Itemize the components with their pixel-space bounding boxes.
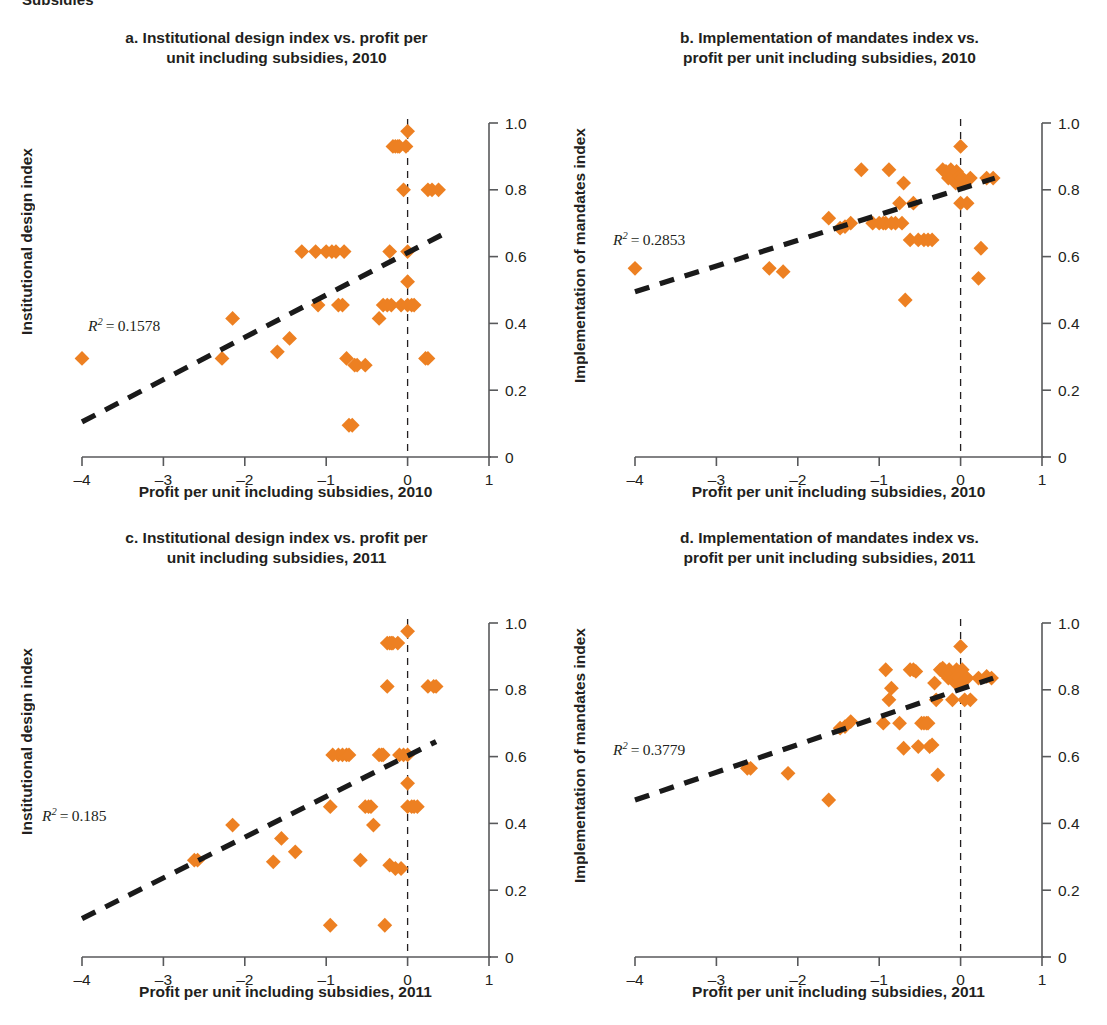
data-point: [400, 124, 415, 139]
y-tick-label-2: 0.4: [1058, 315, 1080, 332]
data-point: [377, 918, 392, 933]
data-point: [776, 264, 791, 279]
x-tick-label-3: –1: [318, 971, 335, 988]
data-point: [762, 261, 777, 276]
data-point: [821, 793, 836, 808]
data-point: [396, 182, 411, 197]
x-tick-label-2: –2: [236, 971, 253, 988]
y-tick-label-4: 0.8: [505, 681, 527, 698]
y-tick-label-0: 0: [1058, 949, 1067, 966]
data-point: [930, 768, 945, 783]
data-point: [400, 274, 415, 289]
data-point: [337, 244, 352, 259]
data-point: [882, 162, 897, 177]
y-tick-label-5: 1.0: [1058, 615, 1080, 632]
panel-b: b. Implementation of mandates index vs.p…: [553, 28, 1106, 518]
data-point: [854, 162, 869, 177]
data-point: [274, 831, 289, 846]
y-tick-label-3: 0.6: [1058, 748, 1080, 765]
x-tick-label-4: 0: [956, 971, 965, 988]
x-tick-label-5: 1: [1038, 971, 1047, 988]
y-tick-label-3: 0.6: [505, 248, 527, 265]
data-point: [971, 271, 986, 286]
data-point: [225, 311, 240, 326]
data-point: [353, 853, 368, 868]
x-tick-label-1: –3: [708, 971, 725, 988]
y-tick-label-5: 1.0: [505, 615, 527, 632]
x-tick-label-1: –3: [155, 471, 172, 488]
data-point: [429, 679, 444, 694]
x-tick-label-1: –3: [708, 471, 725, 488]
data-point: [898, 293, 913, 308]
panel-a: a. Institutional design index vs. profit…: [0, 28, 553, 518]
panel-c: c. Institutional design index vs. profit…: [0, 528, 553, 1018]
data-point: [380, 679, 395, 694]
x-tick-label-3: –1: [871, 971, 888, 988]
scatter-plot-b: –4–3–2–10100.20.40.60.81.0: [553, 28, 1106, 498]
trendline: [635, 678, 993, 800]
x-tick-label-0: –4: [626, 471, 644, 488]
x-tick-label-3: –1: [871, 471, 888, 488]
data-point: [892, 716, 907, 731]
trendline: [82, 742, 436, 919]
y-tick-label-2: 0.4: [505, 815, 527, 832]
data-point: [896, 176, 911, 191]
y-tick-label-3: 0.6: [505, 748, 527, 765]
data-point: [400, 776, 415, 791]
x-tick-label-5: 1: [1038, 471, 1047, 488]
data-point: [266, 854, 281, 869]
data-point: [884, 681, 899, 696]
x-tick-label-4: 0: [956, 471, 965, 488]
scatter-plot-d: –4–3–2–10100.20.40.60.81.0: [553, 528, 1106, 998]
data-point: [372, 311, 387, 326]
trendline: [635, 178, 995, 292]
data-point: [882, 692, 897, 707]
data-point: [294, 244, 309, 259]
data-point: [215, 351, 230, 366]
x-tick-label-2: –2: [789, 471, 806, 488]
x-tick-label-1: –3: [155, 971, 172, 988]
x-tick-label-5: 1: [485, 471, 494, 488]
scatter-plot-c: –4–3–2–10100.20.40.60.81.0: [0, 528, 553, 998]
x-tick-label-4: 0: [403, 971, 412, 988]
y-tick-label-5: 1.0: [1058, 115, 1080, 132]
data-point: [953, 139, 968, 154]
x-tick-label-0: –4: [73, 471, 91, 488]
y-tick-label-5: 1.0: [505, 115, 527, 132]
y-tick-label-1: 0.2: [1058, 382, 1080, 399]
data-point: [270, 344, 285, 359]
data-point: [974, 241, 989, 256]
data-point: [382, 244, 397, 259]
y-tick-label-0: 0: [1058, 449, 1067, 466]
y-tick-label-4: 0.8: [1058, 681, 1080, 698]
y-tick-label-2: 0.4: [505, 315, 527, 332]
data-point: [821, 211, 836, 226]
y-tick-label-0: 0: [505, 949, 514, 966]
data-point: [628, 261, 643, 276]
data-point: [878, 662, 893, 677]
data-point: [75, 351, 90, 366]
x-tick-label-2: –2: [789, 971, 806, 988]
x-tick-label-0: –4: [626, 971, 644, 988]
trendline: [82, 235, 442, 422]
data-point: [366, 818, 381, 833]
data-point: [282, 331, 297, 346]
data-point: [400, 624, 415, 639]
data-point: [896, 741, 911, 756]
data-point: [953, 639, 968, 654]
y-tick-label-4: 0.8: [1058, 181, 1080, 198]
y-tick-label-4: 0.8: [505, 181, 527, 198]
y-tick-label-1: 0.2: [505, 382, 527, 399]
y-tick-label-3: 0.6: [1058, 248, 1080, 265]
x-tick-label-2: –2: [236, 471, 253, 488]
panel-d: d. Implementation of mandates index vs.p…: [553, 528, 1106, 1018]
y-tick-label-1: 0.2: [505, 882, 527, 899]
y-tick-label-1: 0.2: [1058, 882, 1080, 899]
x-tick-label-0: –4: [73, 971, 91, 988]
data-point: [323, 918, 338, 933]
data-point: [323, 799, 338, 814]
y-tick-label-0: 0: [505, 449, 514, 466]
x-tick-label-5: 1: [485, 971, 494, 988]
y-tick-label-2: 0.4: [1058, 815, 1080, 832]
x-tick-label-3: –1: [318, 471, 335, 488]
